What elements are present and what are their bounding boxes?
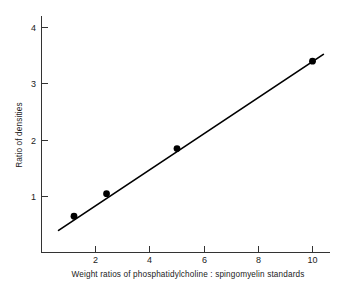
data-point bbox=[71, 213, 78, 220]
y-tick-label-4: 4 bbox=[31, 23, 36, 33]
chart-container: 4 3 2 1 2 4 6 8 10 Weight ratios of phos… bbox=[0, 0, 340, 283]
y-tick-label-3: 3 bbox=[31, 79, 36, 89]
data-point bbox=[103, 190, 110, 197]
x-tick-label-8: 8 bbox=[256, 255, 261, 265]
scatter-plot: 4 3 2 1 2 4 6 8 10 Weight ratios of phos… bbox=[0, 0, 340, 283]
data-point bbox=[309, 58, 316, 65]
x-tick-label-6: 6 bbox=[202, 255, 207, 265]
y-tick-label-1: 1 bbox=[31, 192, 36, 202]
x-tick-label-4: 4 bbox=[147, 255, 152, 265]
x-tick-label-2: 2 bbox=[93, 255, 98, 265]
x-axis-title: Weight ratios of phosphatidylcholine : s… bbox=[72, 270, 305, 279]
data-point bbox=[174, 145, 181, 152]
x-tick-label-10: 10 bbox=[307, 255, 317, 265]
data-point-group bbox=[71, 58, 316, 220]
y-axis-title: Ratio of densities bbox=[15, 102, 24, 168]
best-fit-line bbox=[59, 54, 324, 230]
y-tick-label-2: 2 bbox=[31, 136, 36, 146]
